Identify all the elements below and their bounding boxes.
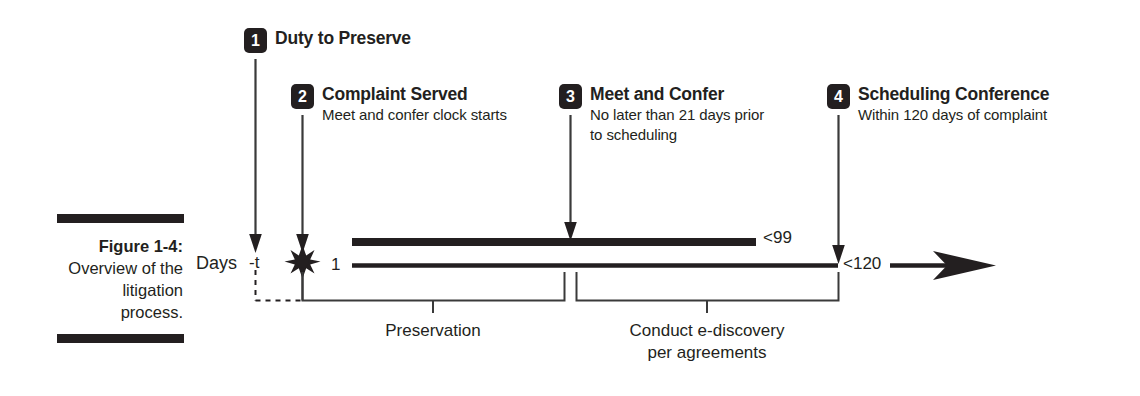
- milestone-1-badge: 1: [244, 28, 267, 53]
- milestone-3-leader-arrow: [564, 115, 577, 241]
- axis-days-label: Days: [196, 253, 237, 273]
- milestone-4-text: Scheduling Conference Within 120 days of…: [858, 83, 1049, 125]
- milestone-1-text: Duty to Preserve: [275, 27, 411, 49]
- caption-description: Overview of the litigation process.: [68, 259, 183, 321]
- phase-bracket-ediscovery: [577, 272, 839, 313]
- phase-label-ediscovery-line1: Conduct e-discovery: [607, 320, 807, 342]
- milestone-4-subtitle: Within 120 days of complaint: [858, 105, 1049, 125]
- milestone-3-title: Meet and Confer: [590, 83, 764, 105]
- milestone-3-text: Meet and Confer No later than 21 days pr…: [590, 83, 764, 145]
- phase-label-preservation: Preservation: [353, 320, 513, 342]
- timeline-terminal-arrow: [890, 251, 996, 280]
- milestone-3-subtitle-line1: No later than 21 days prior: [590, 105, 764, 125]
- milestone-2-badge: 2: [291, 84, 314, 109]
- milestone-1-leader-arrow: [249, 59, 262, 253]
- milestone-4-title: Scheduling Conference: [858, 83, 1049, 105]
- tick-label-one: 1: [331, 255, 340, 275]
- milestone-2-text: Complaint Served Meet and confer clock s…: [322, 83, 507, 125]
- tick-label-99: <99: [763, 228, 792, 248]
- milestone-3-badge: 3: [559, 84, 582, 109]
- figure-caption-block: Figure 1-4: Overview of the litigation p…: [57, 214, 184, 343]
- phase-label-ediscovery: Conduct e-discovery per agreements: [607, 320, 807, 364]
- tick-label-minus-t: -t: [249, 253, 259, 273]
- timeline-thick-bar: [352, 238, 756, 246]
- tick-label-120: <120: [843, 254, 881, 274]
- milestone-2-title: Complaint Served: [322, 83, 507, 105]
- caption-rule-bottom: [57, 334, 184, 343]
- milestone-3-subtitle-line2: to scheduling: [590, 125, 764, 145]
- milestone-4-leader-arrow: [832, 115, 845, 264]
- phase-label-ediscovery-line2: per agreements: [607, 342, 807, 364]
- milestone-2-subtitle: Meet and confer clock starts: [322, 105, 507, 125]
- caption-title: Figure 1-4:: [99, 237, 183, 255]
- phase-bracket-preservation: [303, 272, 565, 313]
- caption-text: Figure 1-4: Overview of the litigation p…: [57, 223, 184, 334]
- caption-rule-top: [57, 214, 184, 223]
- milestone-4-badge: 4: [827, 84, 850, 109]
- preservation-dashed-connector: [256, 270, 303, 301]
- milestone-1-title: Duty to Preserve: [275, 27, 411, 49]
- figure-litigation-timeline: Figure 1-4: Overview of the litigation p…: [0, 0, 1140, 396]
- milestone-2-leader-arrow: [296, 115, 309, 253]
